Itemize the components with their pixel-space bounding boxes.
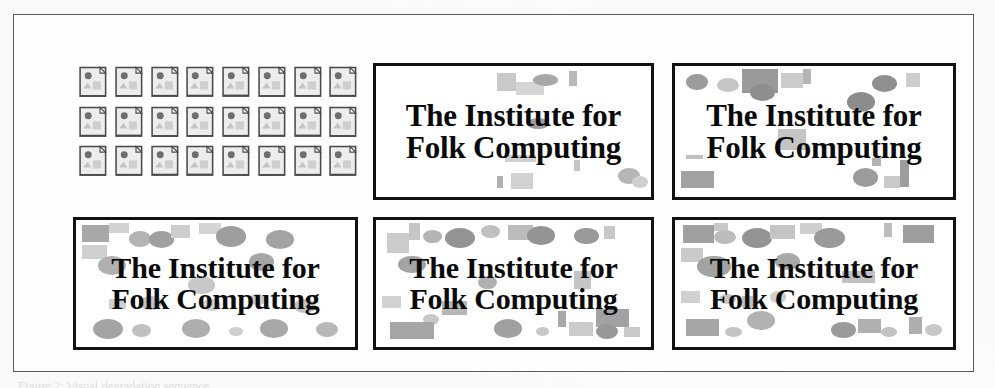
image-document-icon [220,142,255,181]
image-document-icon [149,142,184,181]
image-document-icon [113,63,148,102]
image-document-icon [149,63,184,102]
poster-panel-1: The Institute for Folk Computing [373,63,654,200]
image-document-icon [256,142,291,181]
image-document-icon [113,103,148,142]
poster-title-line1: The Institute for [111,253,319,284]
poster-title-line1: The Institute for [710,253,918,284]
image-document-icon [220,63,255,102]
image-document-icon [292,103,327,142]
image-document-icon [149,103,184,142]
figure-caption: Figure 2: Visual degradation sequence [18,379,958,388]
image-document-icon [292,63,327,102]
figure-outer-frame: The Institute for Folk Computing The Ins… [13,14,974,372]
image-document-icon [327,142,362,181]
poster-title-line2: Folk Computing [710,284,918,315]
poster-title-line2: Folk Computing [409,284,617,315]
image-document-icon [77,63,112,102]
poster-panel-2: The Institute for Folk Computing [672,63,956,200]
poster-title-line1: The Institute for [706,100,921,132]
poster-title-line2: Folk Computing [111,284,319,315]
image-document-icon [113,142,148,181]
poster-title-5: The Institute for Folk Computing [675,220,953,347]
poster-panel-5: The Institute for Folk Computing [672,217,956,350]
poster-title-line1: The Institute for [406,100,621,132]
image-document-icon [184,142,219,181]
image-document-icon [184,103,219,142]
image-document-icon [327,103,362,142]
poster-panel-3: The Institute for Folk Computing [73,217,358,350]
poster-title-line1: The Institute for [409,253,617,284]
poster-title-4: The Institute for Folk Computing [376,220,651,347]
image-file-icon-grid [77,63,362,181]
image-document-icon [77,142,112,181]
image-document-icon [220,103,255,142]
image-document-icon [327,63,362,102]
image-document-icon [256,63,291,102]
poster-title-line2: Folk Computing [406,132,621,164]
poster-title-2: The Institute for Folk Computing [675,66,953,197]
poster-title-1: The Institute for Folk Computing [376,66,651,197]
poster-panel-4: The Institute for Folk Computing [373,217,654,350]
image-document-icon [184,63,219,102]
image-document-icon [77,103,112,142]
poster-title-line2: Folk Computing [706,132,921,164]
image-document-icon [292,142,327,181]
image-document-icon [256,103,291,142]
poster-title-3: The Institute for Folk Computing [76,220,355,347]
